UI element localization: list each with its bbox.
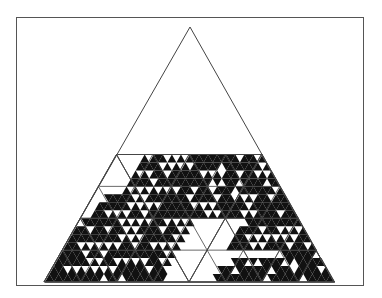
lattice-cell [131,170,140,178]
lattice-cell [122,218,131,226]
lattice-cell [81,242,90,250]
lattice-cell [167,218,176,226]
lattice-cell [149,202,158,210]
lattice-cell [131,202,140,210]
lattice-cell [244,210,253,218]
lattice-cell [118,258,127,266]
lattice-cell [176,155,185,163]
lattice-cell [140,186,149,194]
lattice-cell [176,218,185,226]
lattice-cell [108,242,117,250]
lattice-cell [213,178,222,186]
lattice-cell [149,186,158,194]
lattice-cell [95,266,104,274]
lattice-cell [276,234,285,242]
lattice-cell [281,226,290,234]
lattice-cell [258,234,267,242]
lattice-cell [158,186,167,194]
lattice-cell [163,162,172,170]
lattice-cell [127,226,136,234]
lattice-cell [122,186,131,194]
lattice-cell [140,218,149,226]
lattice-cell [204,202,213,210]
lattice-cell [204,170,213,178]
lattice-cell [208,210,217,218]
lattice-cell [172,162,181,170]
lattice-cell [154,242,163,250]
lattice-cell [131,234,140,242]
fractal-triangle-diagram [0,0,382,298]
lattice-cell [140,155,149,163]
lattice-cell [258,170,267,178]
lattice-cell [131,218,140,226]
lattice-cell [253,242,262,250]
lattice-cell [167,155,176,163]
lattice-cell [77,266,86,274]
